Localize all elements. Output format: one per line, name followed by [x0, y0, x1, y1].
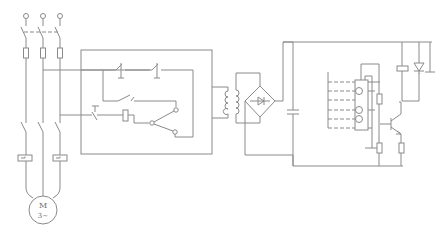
thermal-overload-l3-icon [53, 155, 67, 161]
power-circuit: M 3~ [18, 14, 150, 225]
fuse-l1-icon [24, 48, 29, 58]
bias-resistor-icon [377, 143, 382, 153]
limit-switch-icon [82, 106, 123, 120]
fuse-l2-icon [41, 48, 46, 58]
terminal-l3-icon [58, 14, 63, 19]
output-terminal-icon [425, 42, 435, 72]
control-circuit [81, 50, 212, 154]
emitter-resistor-icon [399, 143, 404, 153]
control-transformer-icon [212, 73, 260, 123]
main-switch-icon [21, 27, 60, 38]
transistor-icon [380, 114, 401, 143]
base-resistor-icon [377, 94, 382, 104]
selector-switch-icon [150, 108, 178, 134]
sensor-array-icon [328, 72, 368, 130]
motor-label-phase: 3~ [38, 212, 48, 220]
fuse-l3-icon [58, 48, 63, 58]
motor-label-m: M [39, 201, 47, 210]
circuit-diagram: M 3~ [0, 0, 448, 233]
detection-circuit [283, 42, 435, 166]
terminal-l1-icon [24, 14, 29, 19]
flyback-diode-icon [414, 42, 424, 74]
motor-icon: M 3~ [29, 196, 57, 224]
stop-button-2-icon [152, 63, 193, 78]
terminal-l2-icon [41, 14, 46, 19]
thermal-overload-l1-icon [18, 155, 32, 161]
relay-coil-icon [397, 66, 408, 71]
bridge-rectifier-icon [245, 42, 293, 155]
contactor-main-contacts-icon [21, 122, 60, 132]
filter-capacitor-icon [287, 42, 299, 166]
holding-contact-icon [103, 95, 176, 101]
contactor-coil-icon [123, 110, 128, 121]
